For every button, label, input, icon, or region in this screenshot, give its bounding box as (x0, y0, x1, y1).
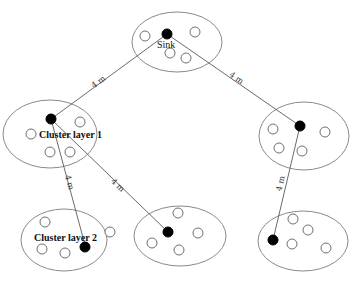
cluster-layer-1-label: Cluster layer 1 (39, 129, 102, 140)
sink-node (162, 29, 172, 39)
member-node (181, 53, 191, 63)
distance-label-layer1-bottom-middle: 4 m (109, 177, 126, 194)
member-node (268, 124, 278, 134)
link-sink-to-layer1 (51, 34, 167, 119)
cluster-right-middle (259, 102, 349, 170)
member-node (105, 227, 115, 237)
member-node (193, 228, 203, 238)
member-node (288, 214, 298, 224)
member-node (45, 147, 55, 157)
member-node (75, 117, 85, 127)
cluster-head-node (295, 121, 305, 131)
cluster-head-node (80, 242, 90, 252)
member-node (65, 147, 75, 157)
sink-label: Sink (157, 39, 175, 50)
distance-label-sink-layer1: 4 m (90, 74, 108, 90)
member-node (173, 208, 183, 218)
member-node (321, 243, 331, 253)
member-node (303, 225, 313, 235)
member-node (60, 248, 70, 258)
member-node (37, 244, 47, 254)
cluster-head-node (268, 235, 278, 245)
member-node (297, 146, 307, 156)
member-node (190, 27, 200, 37)
cluster-network-diagram: 4 m 4 m 4 m 4 m 4 m Sink Cluster layer 1… (0, 0, 357, 284)
cluster-layer-2-label: Cluster layer 2 (34, 232, 97, 243)
member-node (287, 239, 297, 249)
cluster-head-node (46, 114, 56, 124)
member-node (174, 245, 184, 255)
member-node (274, 143, 284, 153)
member-node (40, 217, 50, 227)
cluster-head-node (163, 227, 173, 237)
distance-label-layer1-layer2: 4 m (63, 174, 76, 191)
member-node (320, 127, 330, 137)
distance-label-sink-right: 4 m (228, 70, 246, 86)
member-node (147, 238, 157, 248)
member-node (140, 31, 150, 41)
member-node (26, 129, 36, 139)
